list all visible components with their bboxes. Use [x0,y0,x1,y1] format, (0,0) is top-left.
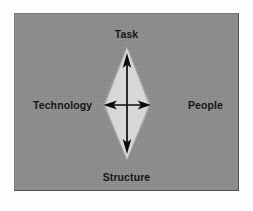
node-label-people: People [188,100,223,111]
figure-canvas: Task Technology People Structure [0,0,253,211]
node-label-structure: Structure [0,172,253,183]
node-label-task: Task [0,29,253,40]
node-label-technology: Technology [33,100,92,111]
